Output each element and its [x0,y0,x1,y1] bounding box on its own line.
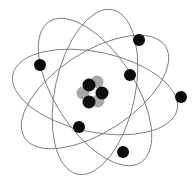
electron [124,69,136,81]
atom-diagram [0,0,196,184]
orbit-ellipse [16,0,175,184]
orbit-ellipse [38,2,151,183]
orbit-ellipse [5,35,186,148]
proton-particle [83,79,96,92]
proton-particle [83,96,96,109]
orbit-ellipse [3,13,187,172]
electron [34,59,46,71]
electron [133,34,145,46]
electron [175,91,187,103]
orbit-group [3,0,187,184]
electron [117,146,129,158]
electron-group [34,34,187,158]
electron [73,121,85,133]
nucleus [77,76,109,109]
proton-particle [96,87,109,100]
